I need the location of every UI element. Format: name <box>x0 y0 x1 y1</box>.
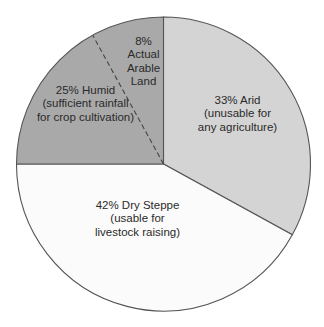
slice-label-line: (sufficient rainfall <box>42 97 128 109</box>
slice-label-line: Arable <box>127 62 160 74</box>
slice-label-line: any agriculture) <box>198 121 277 133</box>
slice-label-line: (unusable for <box>204 107 271 119</box>
slice-label-line: 33% Arid <box>214 94 260 106</box>
slice-label-line: 42% Dry Steppe <box>96 199 180 211</box>
slice-label-line: (usable for <box>110 212 165 224</box>
slice-label-line: 8% <box>135 35 152 47</box>
slice-label-line: Actual <box>128 48 160 60</box>
slice-label-line: livestock raising) <box>95 226 180 238</box>
slice-label-line: 25% Humid <box>56 84 115 96</box>
slice-label-line: for crop cultivation) <box>37 111 134 123</box>
slice-label-line: Land <box>131 75 157 87</box>
pie-chart: 33% Arid(unusable forany agriculture)42%… <box>0 0 324 327</box>
